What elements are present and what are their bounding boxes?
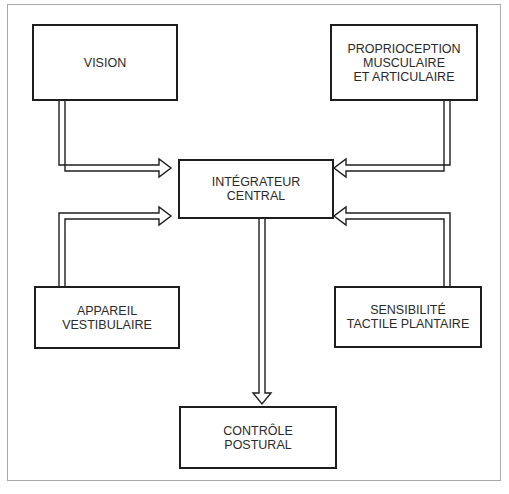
arrow-integrateur-to-controle	[253, 218, 271, 404]
node-label: CONTRÔLE	[223, 424, 292, 438]
arrow-vestibulaire-to-integrateur	[59, 207, 171, 287]
arrow-plantaire-to-integrateur	[334, 207, 450, 287]
node-label: VESTIBULAIRE	[62, 318, 152, 332]
node-label: SENSIBILITÉ	[370, 303, 446, 317]
node-label: TACTILE PLANTAIRE	[347, 317, 469, 331]
node-label: POSTURAL	[224, 438, 291, 452]
node-label: ET ARTICULAIRE	[354, 70, 455, 84]
node-integrateur-central: INTÉGRATEUR CENTRAL	[178, 159, 334, 219]
node-appareil-vestibulaire: APPAREIL VESTIBULAIRE	[34, 286, 180, 349]
node-label: VISION	[84, 56, 126, 70]
node-label: APPAREIL	[77, 304, 137, 318]
node-sensibilite-plantaire: SENSIBILITÉ TACTILE PLANTAIRE	[334, 286, 482, 348]
node-label: CENTRAL	[227, 189, 285, 203]
node-controle-postural: CONTRÔLE POSTURAL	[179, 406, 337, 469]
node-label: PROPRIOCEPTION	[347, 42, 460, 56]
arrow-proprioception-to-integrateur	[334, 100, 450, 177]
arrow-vision-to-integrateur	[59, 100, 171, 177]
node-proprioception: PROPRIOCEPTION MUSCULAIRE ET ARTICULAIRE	[330, 24, 478, 101]
node-vision: VISION	[32, 24, 178, 101]
node-label: INTÉGRATEUR	[212, 175, 301, 189]
node-label: MUSCULAIRE	[363, 56, 445, 70]
